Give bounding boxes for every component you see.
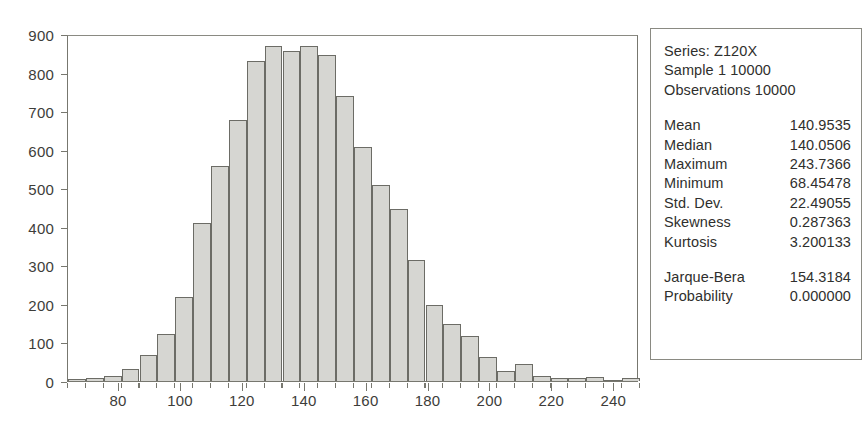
- x-axis-tick-mark: [118, 383, 119, 391]
- x-axis-tick-label: 100: [167, 392, 193, 409]
- x-axis-minor-tick: [425, 383, 426, 388]
- x-axis-minor-tick: [639, 383, 640, 388]
- stat-label: Jarque-Bera: [664, 268, 745, 287]
- stat-value: 68.45478: [790, 174, 851, 193]
- stat-label: Probability: [664, 287, 733, 306]
- statistic-row: Median140.0506: [664, 136, 851, 155]
- stat-label: Maximum: [664, 155, 728, 174]
- stat-value: 243.7366: [790, 155, 851, 174]
- statistic-row: Minimum68.45478: [664, 174, 851, 193]
- statistic-row: Skewness0.287363: [664, 213, 851, 232]
- histogram-chart-panel: 0100200300400500600700800900 80100120140…: [0, 0, 646, 430]
- stat-label: Mean: [664, 116, 701, 135]
- stat-value: 140.0506: [790, 136, 851, 155]
- descriptive-statistics-list: Mean140.9535Median140.0506Maximum243.736…: [664, 116, 851, 252]
- x-axis-minor-tick: [335, 383, 336, 388]
- series-header: Series: Z120X Sample 1 10000 Observation…: [664, 42, 851, 100]
- x-axis-minor-tick: [514, 383, 515, 388]
- x-axis-minor-tick: [532, 383, 533, 388]
- x-axis-tick-mark: [366, 383, 367, 391]
- sample-range-line: Sample 1 10000: [664, 61, 851, 80]
- x-axis-minor-tick: [282, 383, 283, 388]
- x-axis-minor-tick: [299, 383, 300, 388]
- stat-value: 22.49055: [790, 194, 851, 213]
- stat-value: 3.200133: [790, 233, 851, 252]
- x-axis-minor-tick: [264, 383, 265, 388]
- x-axis-tick-mark: [242, 383, 243, 391]
- x-axis-minor-tick: [246, 383, 247, 388]
- x-axis-tick-mark: [180, 383, 181, 391]
- x-axis-minor-tick: [121, 383, 122, 388]
- x-axis-minor-tick: [496, 383, 497, 388]
- x-axis-minor-tick: [192, 383, 193, 388]
- stat-value: 0.000000: [790, 287, 851, 306]
- stat-label: Minimum: [664, 174, 724, 193]
- statistic-row: Mean140.9535: [664, 116, 851, 135]
- stat-label: Std. Dev.: [664, 194, 723, 213]
- statistics-box: Series: Z120X Sample 1 10000 Observation…: [650, 28, 862, 360]
- x-axis-minor-tick: [603, 383, 604, 388]
- x-axis-tick-label: 240: [600, 392, 626, 409]
- stats-spacer-1: [664, 100, 851, 116]
- x-axis-minor-tick: [317, 383, 318, 388]
- histogram-report: 0100200300400500600700800900 80100120140…: [0, 0, 866, 430]
- x-axis-tick-label: 80: [110, 392, 127, 409]
- x-axis-tick-label: 160: [353, 392, 379, 409]
- x-axis-minor-tick: [210, 383, 211, 388]
- x-axis-tick-mark: [489, 383, 490, 391]
- x-axis-tick-mark: [551, 383, 552, 391]
- x-axis-minor-tick: [478, 383, 479, 388]
- x-axis: 80100120140160180200220240: [0, 0, 646, 430]
- test-statistic-row: Probability0.000000: [664, 287, 851, 306]
- normality-test-list: Jarque-Bera154.3184Probability0.000000: [664, 268, 851, 307]
- stat-label: Skewness: [664, 213, 731, 232]
- stat-label: Kurtosis: [664, 233, 717, 252]
- x-axis-tick-mark: [613, 383, 614, 391]
- statistics-content: Series: Z120X Sample 1 10000 Observation…: [664, 42, 851, 307]
- x-axis-minor-tick: [567, 383, 568, 388]
- stat-label: Median: [664, 136, 712, 155]
- x-axis-minor-tick: [442, 383, 443, 388]
- x-axis-minor-tick: [371, 383, 372, 388]
- x-axis-minor-tick: [103, 383, 104, 388]
- x-axis-minor-tick: [585, 383, 586, 388]
- x-axis-minor-tick: [228, 383, 229, 388]
- x-axis-tick-mark: [304, 383, 305, 391]
- x-axis-minor-tick: [407, 383, 408, 388]
- x-axis-minor-tick: [67, 383, 68, 388]
- x-axis-tick-label: 140: [291, 392, 317, 409]
- statistic-row: Std. Dev.22.49055: [664, 194, 851, 213]
- x-axis-minor-tick: [139, 383, 140, 388]
- x-axis-minor-tick: [156, 383, 157, 388]
- stat-value: 154.3184: [790, 268, 851, 287]
- x-axis-tick-label: 220: [539, 392, 565, 409]
- test-statistic-row: Jarque-Bera154.3184: [664, 268, 851, 287]
- stats-spacer-2: [664, 252, 851, 268]
- x-axis-minor-tick: [353, 383, 354, 388]
- x-axis-tick-label: 200: [477, 392, 503, 409]
- x-axis-minor-tick: [174, 383, 175, 388]
- stat-value: 140.9535: [790, 116, 851, 135]
- observations-line: Observations 10000: [664, 81, 851, 100]
- x-axis-minor-tick: [460, 383, 461, 388]
- x-axis-minor-tick: [621, 383, 622, 388]
- stat-value: 0.287363: [790, 213, 851, 232]
- statistic-row: Kurtosis3.200133: [664, 233, 851, 252]
- x-axis-minor-tick: [85, 383, 86, 388]
- x-axis-tick-label: 180: [415, 392, 441, 409]
- x-axis-tick-label: 120: [229, 392, 255, 409]
- x-axis-minor-tick: [389, 383, 390, 388]
- series-name-line: Series: Z120X: [664, 42, 851, 61]
- x-axis-tick-mark: [428, 383, 429, 391]
- statistic-row: Maximum243.7366: [664, 155, 851, 174]
